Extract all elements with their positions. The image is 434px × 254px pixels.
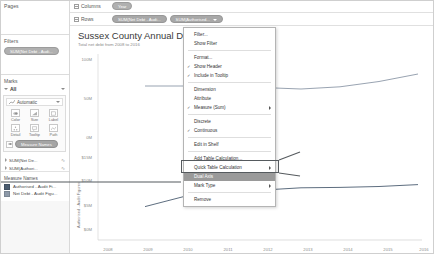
chevron-right-icon[interactable]	[5, 166, 7, 170]
pill-sum-authorised[interactable]: SUM(Authorised...	[170, 15, 223, 23]
menu-item-include-in-tooltip[interactable]: Include in Tooltip	[184, 71, 275, 80]
menu-separator	[188, 50, 271, 51]
rows-shelf-label: Rows	[81, 16, 94, 22]
filters-shelf-title: Filters	[4, 38, 65, 44]
menu-separator	[188, 192, 271, 193]
menu-item-quick-table-calculation[interactable]: Quick Table Calculation	[184, 163, 275, 172]
tableau-window: Pages Filters SUM(Net Debt - Audi... Mar…	[0, 0, 434, 254]
filter-pill-net-debt[interactable]: SUM(Net Debt - Audi...	[4, 47, 59, 55]
marks-shelf-tooltip[interactable]: Tooltip	[25, 124, 44, 137]
marks-shelf-size[interactable]: Size	[25, 109, 44, 122]
mark-type-dropdown[interactable]: Automatic	[6, 98, 63, 106]
mark-type-value: Automatic	[17, 100, 37, 105]
automatic-icon	[9, 100, 15, 105]
menu-item-format[interactable]: Format...	[184, 53, 275, 62]
marks-shelf-label[interactable]: Label	[44, 109, 63, 122]
menu-item-discrete[interactable]: Discrete	[184, 117, 275, 126]
legend-item[interactable]: Net Debt - Audit Figu...	[4, 190, 65, 197]
color-icon	[11, 109, 20, 117]
x-tick-label: 2009	[138, 247, 158, 252]
menu-separator	[188, 82, 271, 83]
x-tick-label: 2010	[178, 247, 198, 252]
menu-item-continuous[interactable]: Continuous	[184, 126, 275, 135]
line-mark-icon: ∿	[61, 165, 65, 171]
marks-all-label: All	[10, 86, 16, 92]
pill-context-menu[interactable]: Filter...Show FilterFormat...Show Header…	[183, 27, 276, 207]
columns-icon	[74, 4, 79, 9]
marks-card: Marks All Automatic	[0, 75, 69, 171]
marks-collapse-icon[interactable]	[61, 88, 65, 90]
menu-separator	[188, 137, 271, 138]
pill-sum-authorised-label: SUM(Authorised...	[176, 17, 210, 22]
menu-item-dual-axis[interactable]: Dual Axis	[184, 172, 275, 181]
marks-card-authorised[interactable]: SUM(Authori... ∿	[0, 163, 69, 171]
marks-shelf-path-label: Path	[50, 133, 58, 137]
pill-sum-net-debt[interactable]: SUM(Net Debt - Audi...	[112, 15, 167, 23]
legend-item-label: Net Debt - Audit Figu...	[13, 190, 57, 197]
menu-item-mark-type[interactable]: Mark Type	[184, 181, 275, 190]
rows-shelf-name: Rows	[74, 16, 108, 22]
columns-shelf-name: Columns	[74, 3, 108, 9]
menu-item-show-filter[interactable]: Show Filter	[184, 39, 275, 48]
chevron-down-icon	[4, 88, 8, 90]
marks-card-net-debt[interactable]: SUM(Net De... ∿	[0, 155, 69, 163]
columns-shelf-label: Columns	[81, 3, 101, 9]
marks-shelf-detail[interactable]: Detail	[6, 124, 25, 137]
label-icon	[49, 109, 58, 117]
marks-card-authorised-label: SUM(Authori...	[9, 166, 59, 171]
color-legend-title: Measure Names	[4, 176, 65, 181]
marks-all-selector[interactable]: All	[4, 86, 65, 92]
rows-shelf[interactable]: Rows SUM(Net Debt - Audi... SUM(Authoris…	[70, 13, 434, 26]
marks-shelf-path[interactable]: Path	[44, 124, 63, 137]
x-tick-label: 2012	[258, 247, 278, 252]
menu-separator	[188, 114, 271, 115]
path-icon	[49, 124, 58, 132]
menu-item-filter[interactable]: Filter...	[184, 30, 275, 39]
filters-shelf[interactable]: Filters SUM(Net Debt - Audi...	[0, 35, 69, 75]
line-mark-icon: ∿	[61, 157, 65, 163]
chevron-down-icon[interactable]	[213, 19, 217, 21]
menu-item-measure-sum[interactable]: Measure (Sum)	[184, 103, 275, 112]
x-tick-label: 2014	[338, 247, 358, 252]
legend-swatch	[4, 191, 10, 197]
x-tick-label: 2016	[414, 247, 434, 252]
chevron-right-icon[interactable]	[5, 158, 7, 162]
menu-item-attribute[interactable]: Attribute	[184, 94, 275, 103]
pill-measure-names[interactable]: Measure Names	[15, 140, 58, 148]
marks-color-assignment[interactable]: Measure Names	[6, 140, 63, 148]
x-tick-label: 2008	[98, 247, 118, 252]
columns-shelf[interactable]: Columns Year	[70, 0, 434, 13]
chevron-down-icon[interactable]	[56, 101, 60, 103]
x-tick-label: 2013	[298, 247, 318, 252]
columns-shelf-pills: Year	[112, 2, 132, 10]
detail-icon	[11, 124, 20, 132]
rows-shelf-pills: SUM(Net Debt - Audi... SUM(Authorised...	[112, 15, 223, 23]
marks-shelf-color-label: Color	[11, 118, 20, 122]
marks-card-body: Automatic Color Size	[3, 95, 66, 152]
marks-shelf-detail-label: Detail	[11, 133, 21, 137]
menu-item-add-table-calculation[interactable]: Add Table Calculation...	[184, 154, 275, 163]
color-icon	[6, 141, 13, 148]
x-tick-label: 2011	[218, 247, 238, 252]
color-legend: Measure Names Authorised - Audit Fi... N…	[0, 171, 69, 201]
tooltip-icon	[30, 124, 39, 132]
marks-card-net-debt-label: SUM(Net De...	[9, 158, 59, 163]
marks-shelf-buttons: Color Size Label	[6, 109, 63, 137]
x-tick-label: 2015	[378, 247, 398, 252]
marks-shelf-color[interactable]: Color	[6, 109, 25, 122]
marks-shelf-size-label: Size	[31, 118, 38, 122]
marks-card-title: Marks	[0, 75, 69, 85]
legend-swatch	[4, 184, 10, 190]
legend-item-label: Authorised - Audit Fi...	[13, 183, 56, 190]
rows-icon	[74, 17, 79, 22]
pages-shelf[interactable]: Pages	[0, 0, 69, 35]
menu-item-show-header[interactable]: Show Header	[184, 62, 275, 71]
left-sidebar: Pages Filters SUM(Net Debt - Audi... Mar…	[0, 0, 70, 254]
size-icon	[30, 109, 39, 117]
menu-separator	[188, 151, 271, 152]
menu-item-edit-in-shelf[interactable]: Edit in Shelf	[184, 140, 275, 149]
legend-item[interactable]: Authorised - Audit Fi...	[4, 183, 65, 190]
menu-item-remove[interactable]: Remove	[184, 195, 275, 204]
pill-year[interactable]: Year	[112, 2, 132, 10]
menu-item-dimension[interactable]: Dimension	[184, 85, 275, 94]
